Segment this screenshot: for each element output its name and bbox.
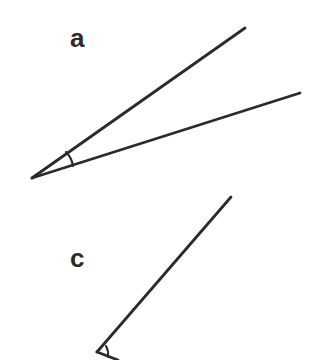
angle-c-group xyxy=(97,197,231,360)
angle-figure-canvas: a c xyxy=(0,0,330,360)
angle-label-a: a xyxy=(70,25,84,51)
angle-a-upper-ray xyxy=(32,28,245,178)
angle-label-c: c xyxy=(70,245,84,271)
angle-diagram-svg xyxy=(0,0,330,360)
angle-c-upper-ray xyxy=(97,197,231,352)
angle-a-arc-marker xyxy=(66,152,73,166)
